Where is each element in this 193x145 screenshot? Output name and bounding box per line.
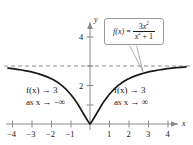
limits-at-infinity-figure: y x −4 −3 −2 −1 1 2 3 4 2 4 f(x) → 3 as …	[0, 0, 193, 145]
denominator-rest: + 1	[142, 32, 153, 41]
x-tick-label: 3	[146, 130, 150, 139]
formula-equals-sign: =	[126, 28, 131, 36]
y-axis-label: y	[94, 16, 98, 24]
formula-left-side: f(x)	[113, 28, 124, 36]
numerator-exponent: 2	[146, 20, 149, 26]
x-tick-label: 1	[107, 130, 111, 139]
left-limit-line1: f(x) → 3	[26, 84, 65, 96]
function-formula: f(x) = 3x2 x2+ 1	[113, 23, 155, 41]
formula-fraction: 3x2 x2+ 1	[133, 23, 155, 41]
y-tick-label: 4	[79, 33, 83, 42]
callout-leader-line	[130, 46, 144, 72]
x-tick-label: −3	[27, 130, 36, 139]
y-tick-label: 2	[79, 82, 83, 91]
x-tick-label: 2	[127, 130, 131, 139]
function-callout-box: f(x) = 3x2 x2+ 1	[104, 18, 164, 45]
formula-denominator: x2+ 1	[133, 32, 155, 41]
y-axis-arrow	[87, 22, 93, 29]
denominator-exponent: 2	[138, 30, 141, 36]
x-tick-label: −2	[46, 130, 55, 139]
x-axis-arrow	[171, 121, 178, 127]
right-limit-line2: as x → ∞	[114, 96, 148, 108]
left-limit-line2: as x → −∞	[26, 96, 65, 108]
x-axis-label: x	[182, 120, 186, 128]
right-limit-line1: f(x) → 3	[114, 84, 148, 96]
right-limit-annotation: f(x) → 3 as x → ∞	[114, 84, 148, 108]
left-limit-annotation: f(x) → 3 as x → −∞	[26, 84, 65, 108]
x-tick-label: −1	[66, 130, 75, 139]
x-tick-label: −4	[7, 130, 16, 139]
x-tick-label: 4	[166, 130, 170, 139]
